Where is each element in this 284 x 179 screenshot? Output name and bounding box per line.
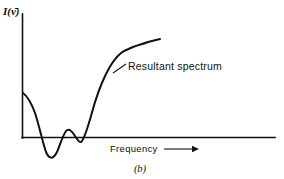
series-leader-line	[113, 64, 126, 73]
spectrum-plot: Resultant spectrum I(ν̄) Frequency (b)	[0, 0, 284, 179]
resultant-spectrum-curve	[23, 39, 160, 158]
y-axis-label: I(ν̄)	[2, 5, 20, 18]
figure-caption: (b)	[134, 163, 147, 175]
frequency-arrow-icon	[164, 146, 199, 152]
figure-panel-b: Resultant spectrum I(ν̄) Frequency (b)	[0, 0, 284, 179]
x-axis-label: Frequency	[110, 143, 158, 154]
series-label: Resultant spectrum	[128, 60, 222, 72]
